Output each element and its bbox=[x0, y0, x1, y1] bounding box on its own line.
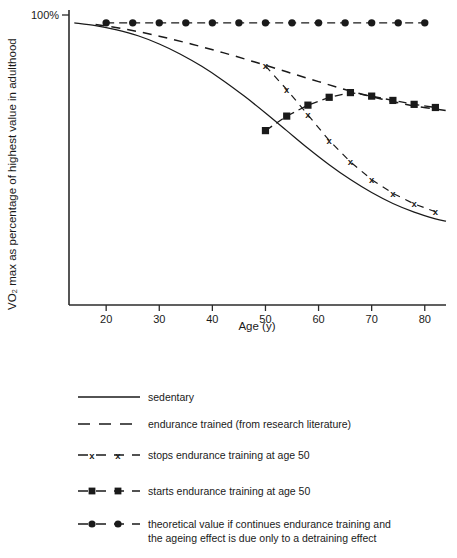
data-point-circle bbox=[395, 19, 402, 26]
data-point-x: x bbox=[390, 188, 396, 199]
series-line bbox=[265, 66, 435, 212]
legend-marker-square bbox=[115, 488, 122, 495]
legend-marker-square bbox=[89, 488, 96, 495]
legend-item-label: endurance trained (from research literat… bbox=[148, 418, 351, 430]
data-point-square bbox=[368, 93, 375, 100]
data-point-circle bbox=[102, 19, 109, 26]
x-axis-tick-label: 80 bbox=[419, 313, 431, 325]
data-point-square bbox=[389, 97, 396, 104]
vo2max-ageing-chart: VO₂ max as percentage of highest value i… bbox=[0, 0, 457, 558]
data-point-x: x bbox=[369, 174, 375, 185]
legend-marker-circle bbox=[114, 520, 121, 527]
data-point-x: x bbox=[327, 135, 333, 146]
x-axis-title: Age (y) bbox=[238, 320, 275, 332]
data-point-square bbox=[283, 113, 290, 120]
legend-item-2[interactable]: endurance trained (from research literat… bbox=[78, 418, 351, 430]
legend-marker-x: x bbox=[115, 450, 121, 461]
legend: sedentaryendurance trained (from researc… bbox=[78, 391, 391, 544]
data-point-circle bbox=[368, 19, 375, 26]
data-point-x: x bbox=[433, 206, 439, 217]
data-point-square bbox=[262, 127, 269, 134]
data-point-x: x bbox=[263, 60, 269, 71]
plot-series-group: xxxxxxxxx bbox=[74, 19, 446, 221]
series-5 bbox=[102, 19, 428, 26]
data-point-circle bbox=[182, 19, 189, 26]
data-point-circle bbox=[129, 19, 136, 26]
data-point-square bbox=[347, 89, 354, 96]
x-axis-tick-label: 70 bbox=[366, 313, 378, 325]
series-line bbox=[265, 93, 435, 131]
series-3: xxxxxxxxx bbox=[263, 60, 439, 217]
legend-item-label: theoretical value if continues endurance… bbox=[148, 518, 391, 530]
y-axis-title: VO₂ max as percentage of highest value i… bbox=[6, 38, 18, 310]
axes bbox=[62, 10, 446, 305]
series-4 bbox=[262, 89, 439, 134]
data-point-square bbox=[432, 104, 439, 111]
y-axis-top-tick-label: 100% bbox=[31, 9, 59, 21]
x-axis-tick-label: 20 bbox=[100, 313, 112, 325]
data-point-circle bbox=[156, 19, 163, 26]
legend-item-1[interactable]: sedentary bbox=[78, 391, 195, 403]
x-axis-tick-label: 40 bbox=[206, 313, 218, 325]
x-axis-tick-label: 30 bbox=[153, 313, 165, 325]
legend-item-label-line2: the ageing effect is due only to a detra… bbox=[148, 532, 377, 544]
data-point-circle bbox=[341, 19, 348, 26]
data-point-square bbox=[411, 101, 418, 108]
data-point-x: x bbox=[305, 109, 311, 120]
data-point-x: x bbox=[284, 84, 290, 95]
data-point-circle bbox=[235, 19, 242, 26]
data-point-x: x bbox=[411, 198, 417, 209]
legend-marker-x: x bbox=[89, 450, 95, 461]
data-point-x: x bbox=[348, 156, 354, 167]
legend-item-label: stops endurance training at age 50 bbox=[148, 449, 310, 461]
legend-item-label: sedentary bbox=[148, 391, 195, 403]
data-point-circle bbox=[421, 19, 428, 26]
legend-marker-circle bbox=[88, 520, 95, 527]
data-point-circle bbox=[209, 19, 216, 26]
data-point-circle bbox=[288, 19, 295, 26]
legend-item-4[interactable]: starts endurance training at age 50 bbox=[78, 485, 310, 497]
x-axis-tick-label: 60 bbox=[312, 313, 324, 325]
data-point-circle bbox=[315, 19, 322, 26]
data-point-square bbox=[304, 102, 311, 109]
legend-item-label: starts endurance training at age 50 bbox=[148, 485, 310, 497]
legend-item-3[interactable]: xxstops endurance training at age 50 bbox=[78, 449, 310, 461]
data-point-square bbox=[326, 94, 333, 101]
data-point-circle bbox=[262, 19, 269, 26]
legend-item-5[interactable]: theoretical value if continues endurance… bbox=[78, 518, 391, 544]
